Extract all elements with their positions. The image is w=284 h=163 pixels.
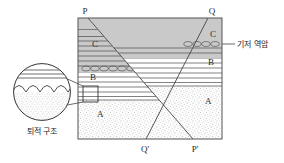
sedimentary-structure-label: 퇴적 구조 [27,126,58,136]
basal-conglomerate-label: 기저 역암 [237,39,269,49]
unit-label-B-left: B [90,72,96,82]
label-Qprime: Q' [141,144,149,154]
magnifier-contents [10,62,78,124]
unit-label-A-right: A [205,96,212,106]
label-Q: Q [209,6,216,16]
figure-canvas: P Q Q' P' C C B B A A 기저 역암 [0,0,284,163]
unit-label-C-right: C [210,29,216,39]
label-Pprime: P' [192,144,199,154]
unit-label-A-left: A [97,109,104,119]
geologic-cross-section-diagram: P Q Q' P' C C B B A A 기저 역암 [0,0,284,163]
label-P: P [82,6,87,16]
unit-label-B-right: B [208,57,214,67]
unit-label-C-left: C [92,39,98,49]
